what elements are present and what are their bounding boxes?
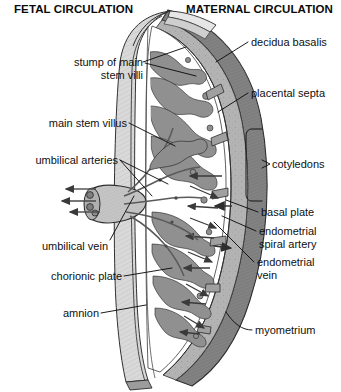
label-myometrium: myometrium bbox=[255, 324, 316, 337]
placenta-circulation-diagram: FETAL CIRCULATION MATERNAL CIRCULATION s… bbox=[0, 0, 341, 392]
header-fetal-circulation: FETAL CIRCULATION bbox=[14, 3, 133, 15]
label-amnion: amnion bbox=[0, 307, 99, 320]
header-maternal-circulation: MATERNAL CIRCULATION bbox=[186, 3, 333, 15]
label-stump-of-main-stem-villi: stump of main stem villi bbox=[0, 56, 143, 81]
label-chorionic-plate: chorionic plate bbox=[0, 270, 122, 283]
label-cotyledons: cotyledons bbox=[272, 158, 325, 171]
label-endometrial-vein: endometrial vein bbox=[257, 256, 314, 281]
label-main-stem-villus: main stem villus bbox=[0, 117, 127, 130]
label-decidua-basalis: decidua basalis bbox=[251, 36, 327, 49]
label-umbilical-vein: umbilical vein bbox=[0, 240, 108, 253]
label-umbilical-arteries: umbilical arteries bbox=[0, 154, 118, 167]
label-placental-septa: placental septa bbox=[251, 87, 325, 100]
label-basal-plate: basal plate bbox=[261, 206, 314, 219]
label-endometrial-spiral-artery: endometrial spiral artery bbox=[259, 225, 316, 250]
